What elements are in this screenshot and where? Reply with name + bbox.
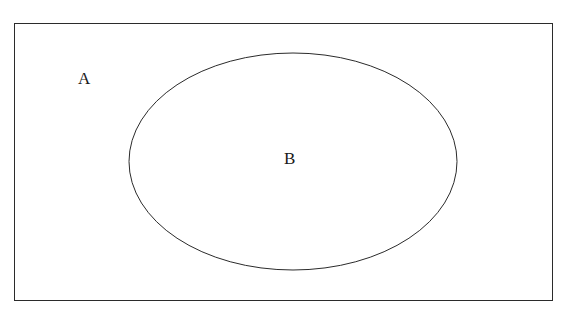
universal-set-label: A [78, 70, 90, 87]
subset-label: B [284, 150, 295, 167]
euler-diagram-canvas: A B [0, 0, 568, 321]
